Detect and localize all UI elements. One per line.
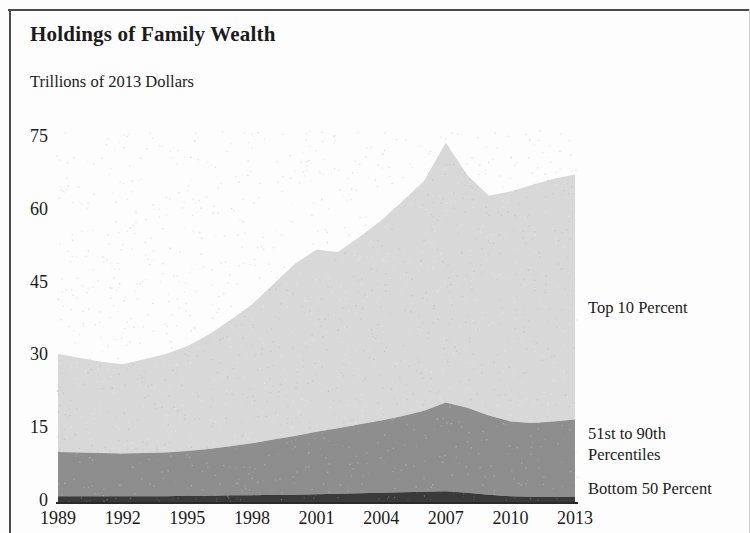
area-band-top-10-percent (58, 143, 575, 454)
legend-label-51st-to-90th-line1: 51st to 90th (588, 423, 666, 444)
x-axis-tick-1998: 1998 (217, 508, 287, 529)
x-axis-tick-1995: 1995 (152, 508, 222, 529)
y-axis-tick-45: 45 (14, 272, 48, 293)
legend-label-51st-to-90th: 51st to 90th Percentiles (588, 423, 666, 465)
legend-label-bottom-50-percent: Bottom 50 Percent (588, 478, 712, 499)
legend-label-51st-to-90th-line2: Percentiles (588, 444, 666, 465)
y-axis-tick-15: 15 (14, 417, 48, 438)
x-axis-tick-2013: 2013 (540, 508, 610, 529)
y-axis-tick-30: 30 (14, 344, 48, 365)
x-axis-tick-2010: 2010 (475, 508, 545, 529)
x-axis-tick-2001: 2001 (282, 508, 352, 529)
x-axis-tick-2007: 2007 (411, 508, 481, 529)
x-axis-tick-1989: 1989 (23, 508, 93, 529)
y-axis-tick-60: 60 (14, 199, 48, 220)
legend-label-top-10-percent: Top 10 Percent (588, 297, 688, 318)
figure-panel: Holdings of Family Wealth Trillions of 2… (0, 0, 750, 533)
x-axis-tick-2004: 2004 (346, 508, 416, 529)
x-axis-tick-1992: 1992 (88, 508, 158, 529)
y-axis-tick-75: 75 (14, 126, 48, 147)
